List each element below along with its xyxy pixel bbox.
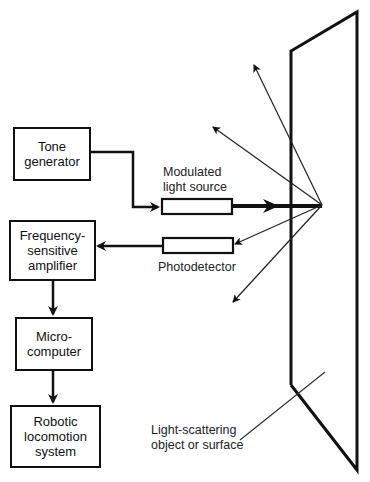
surface-label: Light-scattering object or surface	[151, 423, 243, 453]
tone-to-source-arrow	[90, 152, 158, 207]
surface-leader-line	[240, 372, 325, 440]
robotic-locomotion-block: Robotic locomotion system	[10, 405, 101, 468]
photodetector-label: Photodetector	[158, 260, 236, 275]
light-source-box	[162, 199, 232, 214]
frequency-amplifier-block: Frequency- sensitive amplifier	[9, 220, 96, 281]
light-source-label: Modulated light source	[163, 165, 227, 195]
tone-generator-block: Tone generator	[13, 127, 91, 181]
microcomputer-block: Micro- computer	[15, 317, 93, 371]
photodetector-box	[163, 238, 233, 253]
diagram-canvas: Tone generator Frequency- sensitive ampl…	[0, 0, 370, 482]
surface-panel	[291, 12, 357, 470]
